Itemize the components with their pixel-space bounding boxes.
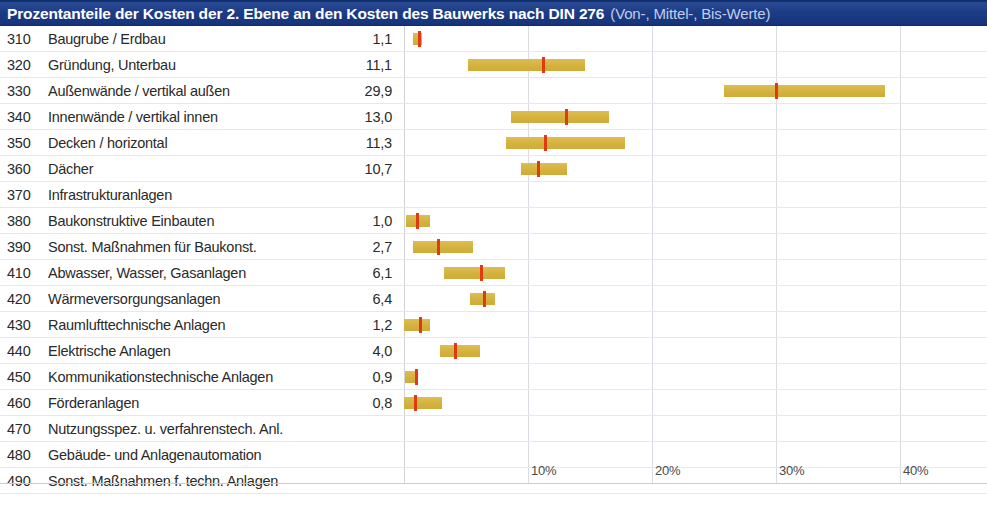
median-marker	[544, 135, 547, 151]
median-marker	[416, 213, 419, 229]
row-value: 6,4	[300, 286, 392, 312]
axis-bottom-rule	[0, 483, 987, 484]
chart-body: 310Baugrube / Erdbau1,1320Gründung, Unte…	[0, 26, 987, 484]
axis-tick-label: 40%	[903, 458, 928, 484]
row-value: 4,0	[300, 338, 392, 364]
row-label: Innenwände / vertikal innen	[48, 104, 218, 130]
chart-title-bar: Prozentanteile der Kosten der 2. Ebene a…	[0, 0, 987, 26]
median-marker	[565, 109, 568, 125]
table-row[interactable]: 360Dächer10,7	[0, 156, 987, 182]
row-code: 360	[7, 156, 31, 182]
row-value: 11,1	[300, 52, 392, 78]
row-label: Kommunikationstechnische Anlagen	[48, 364, 273, 390]
page-title-subtitle: (Von-, Mittel-, Bis-Werte)	[604, 5, 770, 22]
row-value: 1,2	[300, 312, 392, 338]
median-marker	[454, 343, 457, 359]
row-value: 2,7	[300, 234, 392, 260]
row-label: Förderanlagen	[48, 390, 139, 416]
range-bar	[444, 267, 505, 279]
row-value: 13,0	[300, 104, 392, 130]
table-row[interactable]: 320Gründung, Unterbau11,1	[0, 52, 987, 78]
row-label: Gründung, Unterbau	[48, 52, 176, 78]
row-code: 380	[7, 208, 31, 234]
table-row[interactable]: 310Baugrube / Erdbau1,1	[0, 26, 987, 52]
median-marker	[542, 57, 545, 73]
row-code: 330	[7, 78, 31, 104]
table-row[interactable]: 440Elektrische Anlagen4,0	[0, 338, 987, 364]
row-code: 390	[7, 234, 31, 260]
range-bar	[506, 137, 625, 149]
median-marker	[480, 265, 483, 281]
row-value: 1,1	[300, 26, 392, 52]
table-row[interactable]: 350Decken / horizontal11,3	[0, 130, 987, 156]
range-bar	[468, 59, 585, 71]
row-label: Elektrische Anlagen	[48, 338, 171, 364]
row-value: 11,3	[300, 130, 392, 156]
row-code: 350	[7, 130, 31, 156]
row-label: Infrastrukturanlagen	[48, 182, 172, 208]
axis-tick-label: 20%	[655, 458, 680, 484]
median-marker	[483, 291, 486, 307]
table-row[interactable]: 420Wärmeversorgungsanlagen6,4	[0, 286, 987, 312]
median-marker	[414, 395, 417, 411]
median-marker	[537, 161, 540, 177]
row-label: Nutzungsspez. u. verfahrenstech. Anl.	[48, 416, 283, 442]
row-code: 450	[7, 364, 31, 390]
row-code: 320	[7, 52, 31, 78]
table-row[interactable]: 390Sonst. Maßnahmen für Baukonst.2,7	[0, 234, 987, 260]
row-value: 6,1	[300, 260, 392, 286]
median-marker	[418, 31, 421, 47]
row-code: 310	[7, 26, 31, 52]
row-value: 0,9	[300, 364, 392, 390]
range-bar	[511, 111, 609, 123]
row-value: 0,8	[300, 390, 392, 416]
row-code: 440	[7, 338, 31, 364]
table-row[interactable]: 380Baukonstruktive Einbauten1,0	[0, 208, 987, 234]
range-bar	[440, 345, 480, 357]
row-code: 420	[7, 286, 31, 312]
table-row[interactable]: 430Raumlufttechnische Anlagen1,2	[0, 312, 987, 338]
table-row[interactable]: 330Außenwände / vertikal außen29,9	[0, 78, 987, 104]
row-code: 460	[7, 390, 31, 416]
row-code: 370	[7, 182, 31, 208]
range-bar	[521, 163, 567, 175]
row-label: Wärmeversorgungsanlagen	[48, 286, 220, 312]
row-label: Raumlufttechnische Anlagen	[48, 312, 225, 338]
range-bar	[724, 85, 885, 97]
median-marker	[419, 317, 422, 333]
table-row[interactable]: 470Nutzungsspez. u. verfahrenstech. Anl.	[0, 416, 987, 442]
row-label: Abwasser, Wasser, Gasanlagen	[48, 260, 246, 286]
table-row[interactable]: 410Abwasser, Wasser, Gasanlagen6,1	[0, 260, 987, 286]
table-row[interactable]: 450Kommunikationstechnische Anlagen0,9	[0, 364, 987, 390]
row-code: 470	[7, 416, 31, 442]
row-label: Baugrube / Erdbau	[48, 26, 165, 52]
row-label: Außenwände / vertikal außen	[48, 78, 230, 104]
median-marker	[415, 369, 418, 385]
page-title: Prozentanteile der Kosten der 2. Ebene a…	[0, 5, 604, 23]
range-bar	[413, 241, 473, 253]
row-value: 29,9	[300, 78, 392, 104]
row-code: 410	[7, 260, 31, 286]
row-value: 1,0	[300, 208, 392, 234]
table-row[interactable]: 340Innenwände / vertikal innen13,0	[0, 104, 987, 130]
x-axis-labels: 10%20%30%40%	[0, 458, 987, 484]
row-label: Decken / horizontal	[48, 130, 167, 156]
axis-tick-label: 30%	[779, 458, 804, 484]
range-bar	[404, 397, 442, 409]
row-label: Dächer	[48, 156, 93, 182]
row-label: Baukonstruktive Einbauten	[48, 208, 214, 234]
row-code: 340	[7, 104, 31, 130]
row-value: 10,7	[300, 156, 392, 182]
chart-page: Prozentanteile der Kosten der 2. Ebene a…	[0, 0, 987, 510]
row-value	[300, 416, 392, 442]
row-label: Sonst. Maßnahmen für Baukonst.	[48, 234, 257, 260]
median-marker	[775, 83, 778, 99]
table-row[interactable]: 370Infrastrukturanlagen	[0, 182, 987, 208]
range-bar	[404, 319, 430, 331]
axis-tick-label: 10%	[531, 458, 556, 484]
row-value	[300, 182, 392, 208]
row-code: 430	[7, 312, 31, 338]
table-row[interactable]: 460Förderanlagen0,8	[0, 390, 987, 416]
median-marker	[437, 239, 440, 255]
